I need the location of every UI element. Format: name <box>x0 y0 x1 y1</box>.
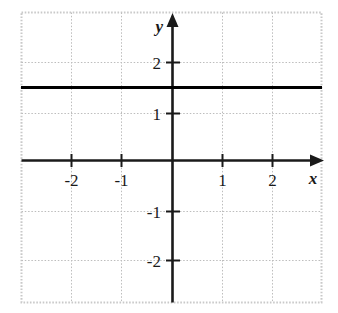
x-tick-label-1: 1 <box>218 171 227 190</box>
coordinate-plane-plot: -2 -1 1 2 2 1 -1 -2 y x <box>0 0 338 313</box>
x-tick-label-2: 2 <box>268 171 277 190</box>
x-tick-label--1: -1 <box>114 171 128 190</box>
y-tick-label-1: 1 <box>153 105 162 124</box>
y-axis-label: y <box>153 17 163 36</box>
y-tick-label-2: 2 <box>153 54 162 73</box>
x-tick-label--2: -2 <box>64 171 78 190</box>
y-tick-label--1: -1 <box>147 203 161 222</box>
x-axis-label: x <box>308 169 318 188</box>
graph-figure: -2 -1 1 2 2 1 -1 -2 y x <box>0 0 338 313</box>
y-tick-label--2: -2 <box>147 252 161 271</box>
